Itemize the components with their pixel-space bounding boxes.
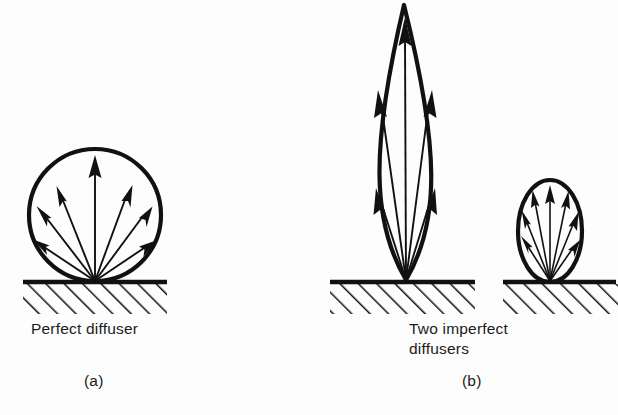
ray-arrow xyxy=(406,188,437,280)
ray-arrow xyxy=(374,188,407,280)
ray-arrow xyxy=(95,185,133,281)
ground-hatch-b-right xyxy=(503,282,618,314)
ray-arrow xyxy=(37,206,96,281)
ray-arrow xyxy=(57,186,96,281)
figure-root: Perfect diffuser (a) Two imperfect diffu… xyxy=(0,0,618,415)
ground-hatch-a xyxy=(23,282,167,314)
panel-b-broad-lobe xyxy=(503,180,618,314)
ray-arrow xyxy=(95,207,153,282)
diffuser-diagram-svg xyxy=(0,0,618,415)
ray-arrow xyxy=(89,155,102,281)
panel-b-narrow-lobe xyxy=(330,5,475,314)
ground-hatch-b-left xyxy=(330,282,475,314)
ray-arrows-b-narrow xyxy=(374,17,438,280)
panel-a-perfect-diffuser xyxy=(23,149,167,314)
